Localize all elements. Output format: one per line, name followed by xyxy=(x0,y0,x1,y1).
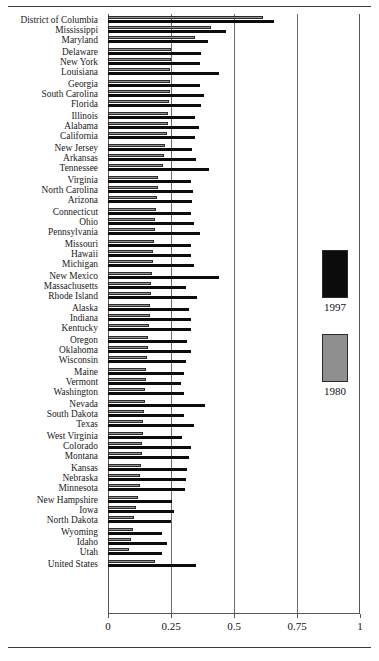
chart-row: Arizona xyxy=(0,195,379,205)
bar-1980 xyxy=(108,68,170,72)
bar-1997 xyxy=(108,212,191,216)
chart-row: Nebraska xyxy=(0,473,379,483)
category-label: Florida xyxy=(0,99,98,109)
bar-1980 xyxy=(108,452,142,456)
category-label: Utah xyxy=(0,547,98,557)
bar-1980 xyxy=(108,314,150,318)
bar-1997 xyxy=(108,350,191,354)
chart-row: Kansas xyxy=(0,463,379,473)
chart-row: California xyxy=(0,131,379,141)
category-label: Maryland xyxy=(0,35,98,45)
chart-row: Mississippi xyxy=(0,25,379,35)
chart-row: Florida xyxy=(0,99,379,109)
bar-1980 xyxy=(108,506,136,510)
x-tick-label: 0.5 xyxy=(214,620,254,632)
category-label: Delaware xyxy=(0,47,98,57)
chart-row: North Dakota xyxy=(0,515,379,525)
chart-row: New Hampshire xyxy=(0,495,379,505)
bar-1980 xyxy=(108,218,155,222)
category-label: Missouri xyxy=(0,239,98,249)
category-label: Arkansas xyxy=(0,153,98,163)
x-tick-label: 0 xyxy=(88,620,128,632)
bar-1980 xyxy=(108,196,157,200)
bar-1980 xyxy=(108,528,133,532)
chart-row: Delaware xyxy=(0,47,379,57)
bar-1980 xyxy=(108,282,151,286)
bar-1980 xyxy=(108,260,153,264)
bar-1997 xyxy=(108,126,199,130)
legend-item-1980: 1980 xyxy=(300,334,370,398)
bar-1980 xyxy=(108,324,149,328)
category-label: New Hampshire xyxy=(0,495,98,505)
bar-1980 xyxy=(108,272,152,276)
bar-1980 xyxy=(108,410,144,414)
category-label: North Dakota xyxy=(0,515,98,525)
category-label: Texas xyxy=(0,419,98,429)
x-tick-label: 1 xyxy=(340,620,379,632)
chart-row: Wyoming xyxy=(0,527,379,537)
chart-row: Louisiana xyxy=(0,67,379,77)
category-label: Oregon xyxy=(0,335,98,345)
bar-1980 xyxy=(108,186,158,190)
chart-row: Missouri xyxy=(0,239,379,249)
category-label: United States xyxy=(0,559,98,569)
bar-1997 xyxy=(108,222,194,226)
bar-1980 xyxy=(108,432,143,436)
chart-row: West Virginia xyxy=(0,431,379,441)
bar-1997 xyxy=(108,360,186,364)
bar-1997 xyxy=(108,340,187,344)
bar-1997 xyxy=(108,296,197,300)
bar-1997 xyxy=(108,254,191,258)
chart-row: Utah xyxy=(0,547,379,557)
category-label: Connecticut xyxy=(0,207,98,217)
bar-1980 xyxy=(108,516,134,520)
chart-row: Maryland xyxy=(0,35,379,45)
category-label: Louisiana xyxy=(0,67,98,77)
chart-row: Arkansas xyxy=(0,153,379,163)
category-label: New Mexico xyxy=(0,271,98,281)
category-label: Georgia xyxy=(0,79,98,89)
bar-1997 xyxy=(108,232,200,236)
bar-1980 xyxy=(108,26,211,30)
bar-1980 xyxy=(108,378,146,382)
bar-1980 xyxy=(108,208,156,212)
category-label: California xyxy=(0,131,98,141)
bar-1997 xyxy=(108,436,182,440)
chart-row: Nevada xyxy=(0,399,379,409)
bar-1980 xyxy=(108,474,140,478)
bar-1980 xyxy=(108,48,171,52)
bar-1997 xyxy=(108,116,195,120)
bar-1980 xyxy=(108,58,171,62)
chart-row: Minnesota xyxy=(0,483,379,493)
bar-1997 xyxy=(108,200,192,204)
bar-1997 xyxy=(108,20,274,24)
chart-row: Georgia xyxy=(0,79,379,89)
bar-1997 xyxy=(108,264,194,268)
chart-row: Ohio xyxy=(0,217,379,227)
bar-1997 xyxy=(108,84,200,88)
bar-1980 xyxy=(108,122,168,126)
bar-1980 xyxy=(108,80,170,84)
bar-1980 xyxy=(108,16,263,20)
bar-1980 xyxy=(108,132,167,136)
x-tick xyxy=(108,614,109,618)
category-label: Vermont xyxy=(0,377,98,387)
category-label: Mississippi xyxy=(0,25,98,35)
bar-1997 xyxy=(108,62,200,66)
bar-1997 xyxy=(108,168,209,172)
chart-row: Texas xyxy=(0,419,379,429)
bar-1997 xyxy=(108,552,162,556)
bar-1997 xyxy=(108,318,191,322)
x-tick xyxy=(297,614,298,618)
category-label: Indiana xyxy=(0,313,98,323)
bar-1997 xyxy=(108,158,196,162)
bar-1997 xyxy=(108,404,205,408)
category-label: Alaska xyxy=(0,303,98,313)
category-label: Ohio xyxy=(0,217,98,227)
chart-row: New Jersey xyxy=(0,143,379,153)
bar-1997 xyxy=(108,180,191,184)
bar-1980 xyxy=(108,250,153,254)
bar-1997 xyxy=(108,478,186,482)
bar-1997 xyxy=(108,564,196,568)
bottom-divider-rule xyxy=(8,647,371,648)
